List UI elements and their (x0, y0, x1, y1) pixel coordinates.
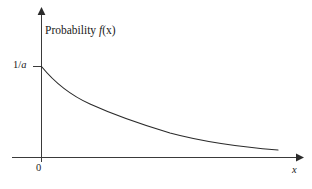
plot-axis-title: Probability f(x) (45, 25, 116, 37)
y-axis-tick-label-denominator: a (21, 59, 26, 70)
plot-axis-title-prefix: Probability (45, 24, 99, 36)
x-axis-label: x (292, 165, 297, 176)
exponential-density-curve (42, 67, 279, 151)
y-axis-arrowhead-icon (38, 7, 46, 15)
y-axis-tick-label: 1/a (13, 60, 26, 71)
exponential-distribution-figure: Probability f(x) 1/a 0 x (0, 0, 312, 189)
origin-label: 0 (36, 163, 41, 174)
plot-axis-title-argument: (x) (102, 24, 115, 36)
x-axis-arrowhead-icon (296, 154, 304, 162)
y-axis-tick-label-numerator: 1/ (13, 59, 21, 70)
